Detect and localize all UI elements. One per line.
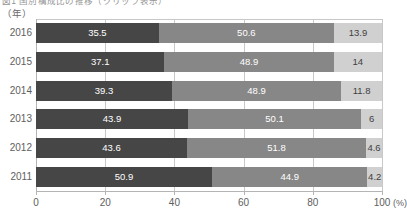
y-axis-category-label: 2014 <box>0 81 32 101</box>
x-tick-40 <box>174 191 175 195</box>
bar-segment-label: 50.6 <box>237 23 256 43</box>
bar-segment-label: 6 <box>369 109 374 129</box>
bar-segment-label: 48.9 <box>247 81 266 101</box>
chart-title-clipped: 図1 国別構成比の推移（クリップ表示） <box>0 0 402 7</box>
bar-row: 39.348.911.8 <box>36 81 382 101</box>
bar-segment-2[interactable]: 48.9 <box>164 52 333 72</box>
bar-segment-3[interactable]: 4.2 <box>367 167 382 187</box>
gridline-0 <box>36 19 37 191</box>
y-axis-unit-label: （年） <box>2 8 32 19</box>
gridline-100 <box>382 19 383 191</box>
bar-row: 37.148.914 <box>36 52 382 72</box>
x-tick-label-0: 0 <box>33 197 39 209</box>
bar-row: 35.550.613.9 <box>36 23 382 43</box>
gridline-60 <box>244 19 245 191</box>
bar-segment-2[interactable]: 50.6 <box>159 23 334 43</box>
bar-segment-2[interactable]: 48.9 <box>172 81 341 101</box>
bar-segment-label: 43.6 <box>102 138 121 158</box>
stacked-bar[interactable]: 43.651.84.6 <box>36 138 382 158</box>
bar-segment-3[interactable]: 4.6 <box>366 138 382 158</box>
x-tick-20 <box>105 191 106 195</box>
bar-segment-3[interactable]: 6 <box>361 109 382 129</box>
bar-segment-3[interactable]: 11.8 <box>341 81 382 101</box>
bar-segment-label: 14 <box>352 52 363 72</box>
bar-row: 50.944.94.2 <box>36 167 382 187</box>
bar-segment-2[interactable]: 50.1 <box>188 109 361 129</box>
bar-row: 43.651.84.6 <box>36 138 382 158</box>
bar-segment-label: 13.9 <box>349 23 368 43</box>
x-tick-0 <box>36 191 37 195</box>
x-tick-60 <box>244 191 245 195</box>
x-tick-label-20: 20 <box>100 197 111 209</box>
gridline-80 <box>313 19 314 191</box>
bar-segment-label: 39.3 <box>95 81 114 101</box>
bar-segment-label: 37.1 <box>91 52 110 72</box>
y-axis-category-label: 2012 <box>0 138 32 158</box>
bar-segment-label: 43.9 <box>103 109 122 129</box>
bar-segment-2[interactable]: 51.8 <box>187 138 366 158</box>
bar-segment-1[interactable]: 37.1 <box>36 52 164 72</box>
chart-title-text: 図1 国別構成比の推移（クリップ表示） <box>0 0 402 7</box>
bar-segment-1[interactable]: 50.9 <box>36 167 212 187</box>
y-axis-category-label: 2015 <box>0 52 32 72</box>
bar-segment-label: 51.8 <box>267 138 286 158</box>
bar-segment-3[interactable]: 13.9 <box>334 23 382 43</box>
bar-segment-label: 35.5 <box>88 23 107 43</box>
gridline-40 <box>174 19 175 191</box>
x-tick-label-100: 100 <box>374 197 391 209</box>
stacked-bar[interactable]: 43.950.16 <box>36 109 382 129</box>
bar-segment-label: 4.2 <box>368 167 381 187</box>
x-tick-80 <box>313 191 314 195</box>
x-axis-unit-label: (%) <box>393 197 407 209</box>
bar-segment-1[interactable]: 43.6 <box>36 138 187 158</box>
bar-segment-label: 50.9 <box>115 167 134 187</box>
bar-segment-1[interactable]: 35.5 <box>36 23 159 43</box>
bar-segment-label: 11.8 <box>353 81 371 101</box>
y-axis-category-label: 2016 <box>0 23 32 43</box>
x-tick-label-40: 40 <box>169 197 180 209</box>
bar-segment-label: 4.6 <box>367 138 380 158</box>
bar-segment-1[interactable]: 39.3 <box>36 81 172 101</box>
bar-segment-3[interactable]: 14 <box>334 52 382 72</box>
stacked-bar[interactable]: 35.550.613.9 <box>36 23 382 43</box>
gridline-20 <box>105 19 106 191</box>
x-tick-100 <box>382 191 383 195</box>
x-tick-label-60: 60 <box>238 197 249 209</box>
y-axis-category-label: 2011 <box>0 167 32 187</box>
bar-segment-label: 44.9 <box>281 167 300 187</box>
bar-row: 43.950.16 <box>36 109 382 129</box>
bar-segment-2[interactable]: 44.9 <box>212 167 367 187</box>
stacked-bar[interactable]: 37.148.914 <box>36 52 382 72</box>
x-axis-line <box>36 191 382 192</box>
stacked-bar[interactable]: 50.944.94.2 <box>36 167 382 187</box>
bar-segment-1[interactable]: 43.9 <box>36 109 188 129</box>
stacked-bar[interactable]: 39.348.911.8 <box>36 81 382 101</box>
x-tick-label-80: 80 <box>307 197 318 209</box>
y-axis-category-label: 2013 <box>0 109 32 129</box>
bar-segment-label: 48.9 <box>240 52 259 72</box>
bar-segment-label: 50.1 <box>265 109 284 129</box>
plot-area: 35.550.613.937.148.91439.348.911.843.950… <box>36 19 382 191</box>
